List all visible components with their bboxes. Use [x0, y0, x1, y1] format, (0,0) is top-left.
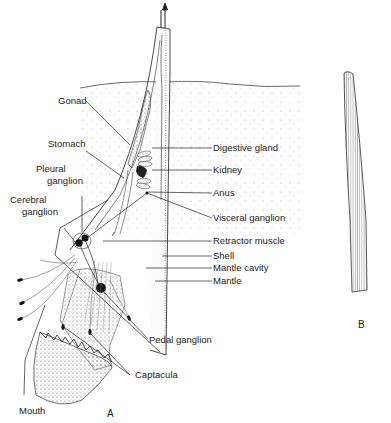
label-kidney: Kidney: [213, 164, 242, 175]
shell-b: [344, 72, 367, 292]
label-gonad: Gonad: [58, 95, 87, 106]
label-anus: Anus: [213, 187, 235, 198]
label-pleural-ganglion-line2: ganglion: [47, 175, 83, 186]
label-retractor-muscle: Retractor muscle: [213, 235, 285, 246]
label-digestive-gland: Digestive gland: [213, 142, 278, 153]
panel-label-b: B: [358, 319, 365, 330]
label-visceral-ganglion: Visceral ganglion: [213, 212, 285, 223]
label-shell: Shell: [213, 250, 234, 261]
label-pleural-ganglion-line1: Pleural: [36, 163, 66, 174]
label-captacula: Captacula: [135, 369, 178, 380]
label-stomach: Stomach: [48, 138, 86, 149]
label-cerebral-ganglion-line1: Cerebral: [10, 194, 46, 205]
label-mouth: Mouth: [19, 405, 45, 416]
label-mantle-cavity: Mantle cavity: [213, 262, 268, 273]
panel-label-a: A: [107, 408, 114, 419]
foot: [34, 269, 125, 404]
label-cerebral-ganglion-line2: ganglion: [22, 206, 58, 217]
anatomy-illustration: [0, 0, 391, 423]
scaphopod-anatomy-figure: Gonad Stomach Pleural ganglion Cerebral …: [0, 0, 391, 423]
label-pedal-ganglion: Pedal ganglion: [149, 334, 212, 345]
label-mantle: Mantle: [213, 275, 242, 286]
